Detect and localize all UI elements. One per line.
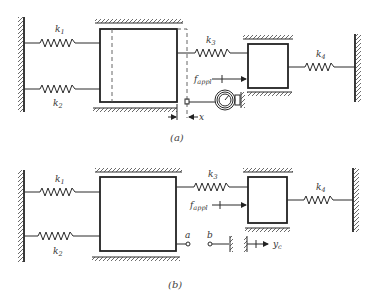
label-a: a <box>185 230 190 240</box>
displaced-position-right <box>177 29 187 118</box>
label-f-appl: fappl <box>189 200 208 212</box>
applied-force-arrow: fappl <box>193 74 246 86</box>
spring-k3: k3 <box>177 35 248 57</box>
label-k1: k1 <box>55 24 65 36</box>
spring-mass-diagram: k1 k2 x k3 <box>0 0 371 297</box>
ground-rail-bottom-2 <box>247 92 292 96</box>
label-k1: k1 <box>55 174 65 186</box>
label-k2: k2 <box>53 98 63 110</box>
caption-b: (b) <box>168 279 182 290</box>
mass-2 <box>248 44 288 88</box>
ground-rail-bottom-1 <box>93 108 177 112</box>
left-wall <box>18 17 24 112</box>
label-x: x <box>199 112 204 122</box>
label-yc: yc <box>272 239 282 251</box>
ground-rail-bottom-2 <box>245 228 290 232</box>
label-k4: k4 <box>316 182 326 194</box>
ground-rail-top-2 <box>243 168 293 172</box>
spring-k3: k3 <box>176 169 248 191</box>
panel-b: k1 k2 a b <box>18 168 359 290</box>
label-k3: k3 <box>208 169 218 181</box>
label-k2: k2 <box>53 246 63 258</box>
terminal-b: b <box>207 230 233 252</box>
right-wall <box>353 168 359 232</box>
left-wall <box>18 170 24 262</box>
label-k3: k3 <box>206 35 216 47</box>
spring-k4: k4 <box>288 49 355 71</box>
mass-1 <box>100 177 176 251</box>
ground-rail-top-2 <box>243 35 293 39</box>
right-wall <box>355 34 361 102</box>
applied-force-arrow: fappl <box>189 200 246 212</box>
mass-2 <box>248 177 287 223</box>
spring-k2: k2 <box>24 232 100 258</box>
ground-rail-bottom-1 <box>92 257 180 261</box>
caption-a: (a) <box>170 132 184 143</box>
dial-gauge-icon <box>185 90 245 110</box>
terminal-a: a <box>176 230 190 246</box>
ground-rail-top-1 <box>95 168 182 172</box>
displacement-x: x <box>168 104 204 122</box>
spring-k1: k1 <box>24 24 100 47</box>
label-f-appl: fappl <box>193 74 212 86</box>
output-yc: yc <box>244 236 282 252</box>
spring-k4: k4 <box>287 182 353 204</box>
panel-a: k1 k2 x k3 <box>18 17 361 143</box>
ground-rail-top-1 <box>95 19 183 23</box>
spring-k2: k2 <box>24 85 100 110</box>
label-k4: k4 <box>316 49 326 61</box>
label-b: b <box>207 230 213 240</box>
spring-k1: k1 <box>24 174 100 196</box>
